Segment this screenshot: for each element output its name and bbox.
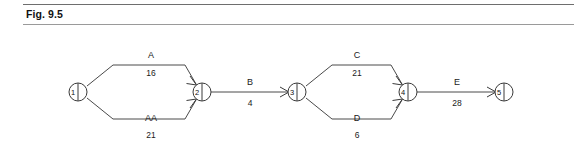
node-4[interactable]: 4: [399, 83, 417, 101]
node-3-label: 3: [290, 88, 294, 97]
edge-aa-duration: 21: [146, 130, 156, 140]
edge-aa-name: AA: [145, 113, 157, 123]
network-diagram: 1 2 3 4 5 A: [0, 26, 581, 143]
node-5[interactable]: 5: [495, 83, 513, 101]
edge-e: [417, 87, 496, 97]
figure-caption: Fig. 9.5: [26, 7, 63, 21]
edge-b-duration: 4: [248, 98, 253, 108]
edge-e-duration: 28: [452, 98, 462, 108]
node-4-label: 4: [401, 88, 405, 97]
edge-a-arrowhead: [187, 76, 197, 85]
edge-a: [87, 65, 197, 86]
edge-b-name: B: [247, 77, 253, 87]
edge-aa: [87, 98, 197, 119]
edge-d-duration: 6: [355, 130, 360, 140]
edge-c-name: C: [354, 50, 361, 60]
node-1-label: 1: [71, 88, 75, 97]
edge-e-name: E: [454, 77, 460, 87]
edge-b: [211, 87, 289, 97]
figure-header: Fig. 9.5: [23, 2, 574, 26]
edge-c-arrowhead: [393, 76, 403, 85]
edge-a-duration: 16: [146, 68, 156, 78]
node-3[interactable]: 3: [288, 83, 306, 101]
edge-aa-arrowhead: [187, 99, 197, 108]
edge-a-name: A: [148, 50, 154, 60]
edge-c-duration: 21: [352, 68, 362, 78]
edge-aa-path: [87, 98, 196, 119]
header-rule-top: [23, 4, 574, 5]
network-diagram-svg: 1 2 3 4 5 A: [0, 26, 581, 143]
edge-a-path: [87, 65, 196, 86]
figure-page: Fig. 9.5: [0, 0, 581, 143]
node-1[interactable]: 1: [69, 83, 87, 101]
node-5-label: 5: [497, 88, 501, 97]
edge-d-name: D: [354, 113, 361, 123]
edge-d-arrowhead: [393, 99, 403, 108]
header-rule-bottom: [23, 24, 574, 25]
node-2-label: 2: [195, 88, 199, 97]
node-2[interactable]: 2: [193, 83, 211, 101]
